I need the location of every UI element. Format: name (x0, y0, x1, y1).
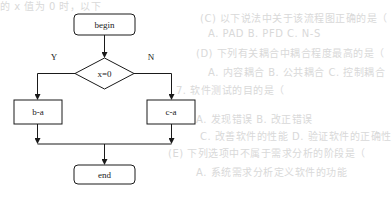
end-label: end (98, 170, 111, 180)
yes-branch-connector (38, 74, 76, 100)
start-label: begin (95, 20, 115, 30)
yes-process-label: b-a (32, 107, 44, 117)
no-branch-label: N (148, 52, 155, 62)
end-node: end (74, 165, 135, 184)
no-process-node: c-a (147, 100, 195, 124)
no-branch-connector (134, 74, 172, 100)
yes-branch-label: Y (51, 52, 58, 62)
yes-process-node: b-a (14, 100, 62, 124)
start-node: begin (74, 14, 135, 35)
decision-node: x=0 (75, 58, 134, 89)
no-process-label: c-a (166, 107, 177, 117)
decision-label: x=0 (97, 69, 112, 79)
